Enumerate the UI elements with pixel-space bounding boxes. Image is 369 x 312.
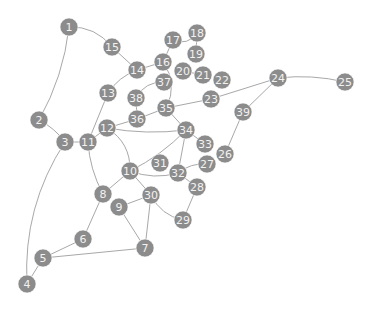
node-label: 25 <box>338 76 352 89</box>
node-label: 15 <box>105 41 119 54</box>
node-label: 33 <box>198 138 212 151</box>
node-18[interactable]: 18 <box>188 24 206 42</box>
node-25[interactable]: 25 <box>336 73 354 91</box>
node-27[interactable]: 27 <box>198 155 216 173</box>
edge-5-7 <box>43 248 145 258</box>
node-layer: 1234567891011121314151617181920212223242… <box>18 18 354 293</box>
node-35[interactable]: 35 <box>157 99 175 117</box>
node-3[interactable]: 3 <box>56 133 74 151</box>
node-31[interactable]: 31 <box>151 154 169 172</box>
node-label: 6 <box>80 233 87 246</box>
node-label: 13 <box>101 87 115 100</box>
node-label: 31 <box>153 157 167 170</box>
node-label: 30 <box>144 189 158 202</box>
node-label: 35 <box>159 102 173 115</box>
node-label: 19 <box>189 48 203 61</box>
node-label: 17 <box>166 34 180 47</box>
node-9[interactable]: 9 <box>110 198 128 216</box>
node-label: 11 <box>81 136 95 149</box>
node-label: 26 <box>218 148 232 161</box>
node-label: 14 <box>130 64 144 77</box>
edge-24-25 <box>278 77 345 82</box>
node-39[interactable]: 39 <box>234 103 252 121</box>
node-label: 7 <box>142 242 149 255</box>
node-label: 2 <box>36 114 43 127</box>
node-label: 10 <box>123 165 137 178</box>
node-19[interactable]: 19 <box>187 45 205 63</box>
node-8[interactable]: 8 <box>94 185 112 203</box>
node-label: 22 <box>215 74 229 87</box>
node-21[interactable]: 21 <box>194 66 212 84</box>
node-4[interactable]: 4 <box>18 275 36 293</box>
node-6[interactable]: 6 <box>74 230 92 248</box>
node-label: 39 <box>236 106 250 119</box>
edge-1-2 <box>39 27 69 120</box>
node-label: 4 <box>24 278 31 291</box>
node-14[interactable]: 14 <box>128 61 146 79</box>
node-label: 5 <box>40 252 47 265</box>
node-37[interactable]: 37 <box>155 73 173 91</box>
node-34[interactable]: 34 <box>177 121 195 139</box>
node-33[interactable]: 33 <box>196 135 214 153</box>
node-32[interactable]: 32 <box>169 164 187 182</box>
node-15[interactable]: 15 <box>103 38 121 56</box>
node-label: 27 <box>200 158 214 171</box>
node-29[interactable]: 29 <box>174 211 192 229</box>
node-30[interactable]: 30 <box>142 186 160 204</box>
edge-12-34 <box>107 128 186 132</box>
node-label: 21 <box>196 69 210 82</box>
node-24[interactable]: 24 <box>269 69 287 87</box>
node-12[interactable]: 12 <box>98 119 116 137</box>
node-label: 18 <box>190 27 204 40</box>
node-label: 9 <box>116 201 123 214</box>
node-label: 28 <box>190 181 204 194</box>
node-36[interactable]: 36 <box>128 110 146 128</box>
node-label: 1 <box>66 21 73 34</box>
node-1[interactable]: 1 <box>60 18 78 36</box>
node-label: 12 <box>100 122 114 135</box>
node-23[interactable]: 23 <box>202 90 220 108</box>
node-26[interactable]: 26 <box>216 145 234 163</box>
node-16[interactable]: 16 <box>154 53 172 71</box>
node-7[interactable]: 7 <box>136 239 154 257</box>
node-10[interactable]: 10 <box>121 162 139 180</box>
node-label: 16 <box>156 56 170 69</box>
node-28[interactable]: 28 <box>188 178 206 196</box>
node-label: 29 <box>176 214 190 227</box>
node-22[interactable]: 22 <box>213 71 231 89</box>
node-17[interactable]: 17 <box>164 31 182 49</box>
node-label: 20 <box>176 65 190 78</box>
node-label: 37 <box>157 76 171 89</box>
node-label: 36 <box>130 113 144 126</box>
node-label: 8 <box>100 188 107 201</box>
node-11[interactable]: 11 <box>79 133 97 151</box>
node-label: 23 <box>204 93 218 106</box>
node-13[interactable]: 13 <box>99 84 117 102</box>
node-label: 32 <box>171 167 185 180</box>
node-label: 38 <box>129 92 143 105</box>
node-38[interactable]: 38 <box>127 89 145 107</box>
node-label: 24 <box>271 72 285 85</box>
node-5[interactable]: 5 <box>34 249 52 267</box>
node-20[interactable]: 20 <box>174 62 192 80</box>
node-2[interactable]: 2 <box>30 111 48 129</box>
node-label: 34 <box>179 124 193 137</box>
node-label: 3 <box>62 136 69 149</box>
network-graph: 1234567891011121314151617181920212223242… <box>0 0 369 312</box>
